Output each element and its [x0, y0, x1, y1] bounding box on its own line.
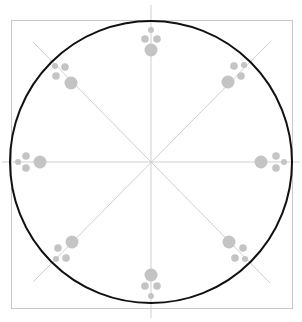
dot [241, 62, 247, 68]
dot-cluster-top-left [52, 63, 78, 90]
dot [54, 244, 62, 252]
dot [153, 282, 161, 290]
dot [145, 44, 158, 57]
dot-cluster-top-right [222, 62, 248, 89]
dot [52, 72, 60, 80]
dot [230, 62, 238, 70]
dot [153, 35, 161, 43]
dot [255, 156, 268, 169]
dot [148, 27, 154, 33]
dot [148, 293, 154, 299]
dot [15, 159, 21, 165]
dot [239, 244, 247, 252]
dot [272, 152, 280, 160]
dot [272, 164, 280, 172]
dot [61, 63, 69, 71]
dot [141, 35, 149, 43]
diagram-canvas [0, 0, 302, 322]
dot [145, 269, 158, 282]
dot [22, 164, 30, 172]
dot-cluster-bottom-right [223, 236, 249, 263]
radial-diagram [0, 0, 302, 322]
dot [34, 156, 47, 169]
dot [66, 236, 79, 249]
dot [53, 256, 59, 262]
dot [62, 254, 70, 262]
dot [237, 72, 245, 80]
dot [222, 76, 235, 89]
dot [231, 254, 239, 262]
dot [223, 236, 236, 249]
dot [52, 63, 58, 69]
dot [65, 77, 78, 90]
dot [281, 159, 287, 165]
dot [242, 256, 248, 262]
dot [22, 152, 30, 160]
dot [141, 282, 149, 290]
